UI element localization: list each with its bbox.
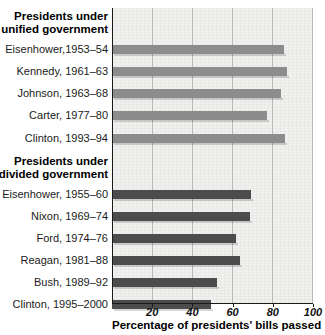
group-header-line: Presidents under: [1, 10, 108, 23]
bar: [112, 89, 281, 98]
category-label: Nixon, 1969–74: [31, 210, 108, 222]
gridline-100: [312, 8, 313, 303]
group-header-line: Presidents under: [0, 155, 108, 168]
plot-area: [112, 8, 313, 303]
bar-shadow: [114, 120, 269, 122]
bar-shadow: [114, 221, 252, 223]
bar-shadow: [114, 243, 238, 245]
group-header-line: divided government: [0, 168, 108, 181]
x-tick-label: 100: [304, 306, 322, 318]
category-label: Eisenhower, 1955–60: [2, 188, 108, 200]
category-label: Johnson, 1963–68: [17, 87, 108, 99]
x-axis-title: Percentage of presidents' bills passed: [112, 319, 313, 331]
bar-shadow: [114, 265, 242, 267]
bar-shadow: [114, 309, 213, 311]
bar: [112, 212, 250, 221]
bar-shadow: [114, 76, 289, 78]
bar-chart: 20406080100 Presidents underunified gove…: [0, 0, 325, 335]
bar-shadow: [114, 54, 286, 56]
bar-shadow: [114, 98, 283, 100]
bar: [112, 45, 284, 54]
category-label: Bush, 1989–92: [34, 276, 108, 288]
bar: [112, 190, 251, 199]
x-tick-label: 80: [267, 306, 279, 318]
group-header: Presidents underdivided government: [0, 155, 108, 181]
x-axis-line: [112, 303, 313, 304]
bar: [112, 278, 217, 287]
category-label: Clinton, 1993–94: [25, 132, 108, 144]
bar: [112, 256, 240, 265]
category-label: Carter, 1977–80: [29, 109, 108, 121]
group-header: Presidents underunified government: [1, 10, 108, 36]
y-axis-line: [112, 8, 113, 304]
category-label: Clinton, 1995–2000: [13, 298, 108, 310]
bar-shadow: [114, 287, 219, 289]
x-tick-label: 60: [226, 306, 238, 318]
category-label: Kennedy, 1961–63: [16, 65, 108, 77]
x-tick-label: 20: [146, 306, 158, 318]
bar: [112, 134, 285, 143]
bar-shadow: [114, 199, 253, 201]
x-tick-label: 40: [186, 306, 198, 318]
category-label: Reagan, 1981–88: [21, 254, 108, 266]
bar: [112, 234, 236, 243]
bar: [112, 67, 287, 76]
bar: [112, 111, 267, 120]
bar-shadow: [114, 143, 287, 145]
category-label: Eisenhower,1953–54: [5, 43, 108, 55]
group-header-line: unified government: [1, 23, 108, 36]
category-label: Ford, 1974–76: [36, 232, 108, 244]
